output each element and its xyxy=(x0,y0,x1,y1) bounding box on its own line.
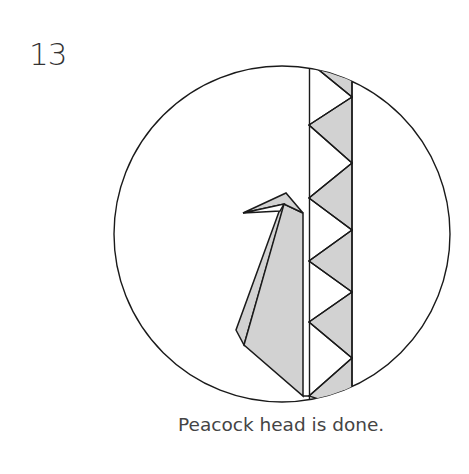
origami-diagram xyxy=(0,0,469,474)
step-caption: Peacock head is done. xyxy=(0,414,469,435)
